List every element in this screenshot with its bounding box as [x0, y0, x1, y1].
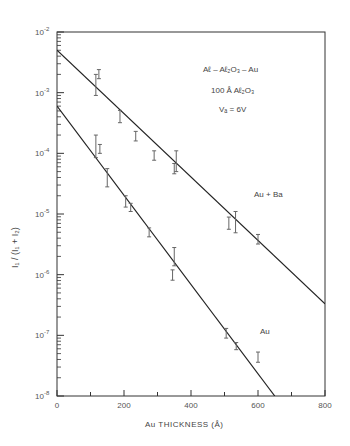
x-tick-label: 800 — [318, 401, 332, 410]
annotation-structure: Aℓ – Aℓ₂O₃ – Au — [203, 65, 258, 74]
x-tick-label: 200 — [117, 401, 131, 410]
series-label-au: Au — [260, 327, 270, 336]
plot-frame — [57, 32, 325, 396]
y-tick-label: 10-2 — [35, 26, 50, 37]
y-tick-label: 10-5 — [35, 208, 50, 219]
x-tick-label: 400 — [184, 401, 198, 410]
x-axis-label: Au THICKNESS (Å) — [145, 420, 224, 429]
x-tick-label: 0 — [55, 401, 60, 410]
fit-line-au-ba — [57, 50, 325, 304]
series-label-au-ba: Au + Ba — [254, 190, 283, 199]
x-tick-label: 600 — [251, 401, 265, 410]
annotation-oxide: 100 Å Aℓ₂O₃ — [211, 86, 254, 95]
y-tick-label: 10-6 — [35, 269, 50, 280]
y-tick-label: 10-8 — [35, 390, 50, 401]
y-tick-label: 10-3 — [35, 87, 50, 98]
y-tick-label: 10-4 — [35, 147, 50, 158]
fit-line-au — [57, 106, 275, 396]
chart-plot: 10-810-710-610-510-410-310-2020040060080… — [0, 0, 350, 446]
y-tick-label: 10-7 — [35, 329, 50, 340]
y-axis-label: I₁ / (I₁ + I₂) — [10, 227, 20, 268]
annotation-voltage: Vₐ = 6V — [219, 105, 246, 114]
